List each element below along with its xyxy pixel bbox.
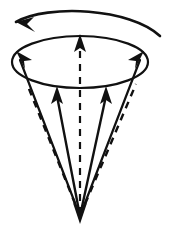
cone-edges-dashed-group [27, 84, 136, 216]
inner-vectors-group [51, 86, 112, 216]
central-axis-vector-group [74, 34, 86, 214]
rim-vector-left-arrowhead-icon [16, 51, 32, 69]
rotation-arrow-curve [16, 11, 160, 36]
rim-vector-right-arrowhead-icon [128, 51, 144, 69]
apex-arrowhead-icon [73, 203, 87, 224]
rim-vector-right-line [80, 60, 140, 216]
cone-rotation-diagram [0, 0, 169, 234]
rotation-arrow-group [16, 11, 160, 36]
rim-vector-left-line [20, 60, 80, 216]
figure-canvas [0, 0, 169, 234]
inner-vector-left-line [57, 96, 80, 216]
